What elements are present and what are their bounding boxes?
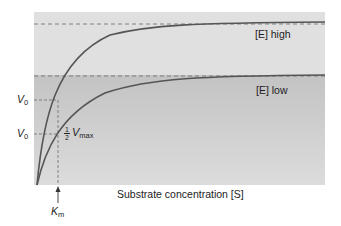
- half-vmax-label: 12Vmax: [64, 126, 93, 141]
- km-label: Km: [51, 205, 64, 217]
- v0-upper-label: V0: [17, 93, 28, 105]
- x-axis-label: Substrate concentration [S]: [117, 188, 244, 200]
- km-arrow-head: [56, 186, 61, 192]
- label-e-low: [E] low: [256, 84, 288, 96]
- v0-lower-label: V0: [17, 127, 28, 139]
- upper-band: [34, 12, 325, 75]
- label-e-high: [E] high: [255, 28, 291, 40]
